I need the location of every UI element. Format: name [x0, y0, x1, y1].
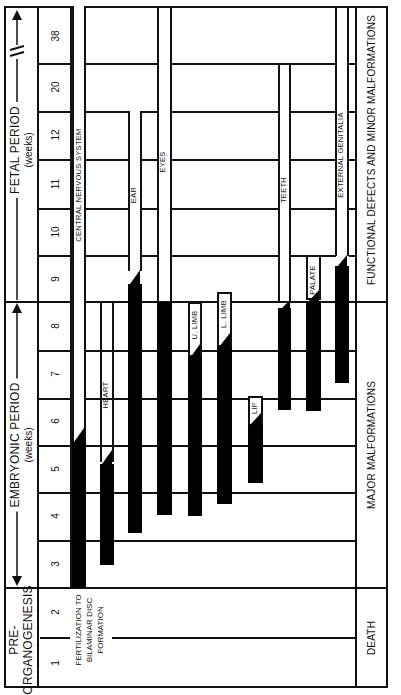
ear-bevel — [130, 270, 140, 284]
upper-limb-highly-sensitive-bar — [188, 357, 202, 516]
genitalia-label: EXTERNAL GENITALIA — [337, 112, 346, 197]
grid-line — [170, 159, 278, 161]
heart-label: HEART — [102, 382, 111, 409]
heart-bevel — [102, 450, 112, 464]
cns-label: CENTRAL NERVOUS SYSTEM — [75, 128, 84, 241]
teeth-highly-sensitive-bar — [278, 308, 291, 410]
week-label-11: 11 — [50, 179, 62, 189]
grid-line — [84, 208, 128, 210]
lower-limb-bevel — [219, 333, 230, 347]
week-label-8: 8 — [50, 323, 62, 329]
grid-line — [84, 63, 157, 65]
week-label-7: 7 — [50, 371, 62, 377]
ear-label: EAR — [130, 187, 139, 203]
week-label-2: 2 — [50, 609, 62, 615]
grid-line — [72, 540, 355, 542]
grid-line — [72, 445, 355, 447]
week-label-3: 3 — [50, 561, 62, 567]
week-label-1: 1 — [50, 660, 62, 666]
heart-highly-sensitive-bar — [100, 464, 114, 565]
week-label-6: 6 — [50, 418, 62, 424]
lower-limb-highly-sensitive-bar — [217, 347, 232, 504]
grid-line — [349, 159, 355, 161]
eyes-lane-edge — [170, 6, 172, 302]
outcome-functional-defects: FUNCTIONAL DEFECTS AND MINOR MALFORMATIO… — [366, 15, 378, 285]
grid-line — [291, 159, 336, 161]
grid-line — [349, 208, 355, 210]
cns-lane-edge — [84, 6, 86, 442]
grid-line — [37, 63, 72, 65]
grid-line — [140, 255, 157, 257]
eyes-label: EYES — [159, 151, 168, 172]
grid-line — [37, 492, 72, 494]
grid-line — [84, 255, 128, 257]
week-label-9: 9 — [50, 276, 62, 282]
grid-line — [72, 492, 355, 494]
cns-highly-sensitive-bar — [72, 442, 86, 588]
pre-embryonic-boundary — [4, 587, 388, 589]
outcome-death: DEATH — [366, 621, 378, 655]
grid-line — [140, 159, 157, 161]
heart-lane-edge — [112, 302, 114, 462]
grid-line — [140, 208, 157, 210]
upper-limb-label: U. LIMB — [191, 310, 200, 339]
week-1-2-divider — [112, 637, 355, 639]
grid-line — [37, 111, 72, 113]
lip-label: LIP — [251, 402, 260, 414]
lower-limb-label: L. LIMB — [220, 300, 229, 328]
grid-line — [84, 111, 128, 113]
grid-line — [170, 63, 336, 65]
genitalia-highly-sensitive-bar — [335, 266, 349, 383]
fertilization-note: FERTILIZATION TO BILAMINAR DISC FORMATIO… — [74, 594, 106, 665]
week-label-38: 38 — [50, 30, 62, 41]
grid-line — [37, 350, 72, 352]
outcome-major-malformations: MAJOR MALFORMATIONS — [366, 381, 378, 509]
cns-bevel — [74, 428, 84, 442]
week-label-5: 5 — [50, 466, 62, 472]
pre-organogenesis-label: PRE- ORGANOGENESIS — [8, 585, 36, 694]
grid-line — [37, 159, 72, 161]
lip-highly-sensitive-bar — [248, 425, 263, 483]
grid-line — [37, 540, 72, 542]
grid-line — [37, 255, 72, 257]
grid-line — [37, 398, 72, 400]
grid-line — [140, 111, 157, 113]
teeth-lane-edge — [289, 63, 291, 303]
week-label-20: 20 — [50, 81, 62, 92]
week-1-2-divider — [40, 637, 70, 639]
grid-line — [349, 255, 355, 257]
ear-lane-edge — [140, 111, 142, 271]
fetal-period-label: FETAL PERIOD (weeks) — [7, 102, 36, 198]
grid-line — [170, 208, 278, 210]
genitalia-lane-edge — [347, 6, 349, 256]
grid-line — [291, 111, 336, 113]
grid-line — [170, 255, 278, 257]
grid-line — [37, 445, 72, 447]
palate-highly-sensitive-bar — [306, 301, 321, 411]
grid-line — [349, 63, 355, 65]
teeth-label: TEETH — [280, 177, 289, 203]
grid-line — [170, 111, 278, 113]
scale-break-icon — [8, 45, 26, 59]
upper-limb-bevel — [190, 344, 200, 358]
week-label-10: 10 — [50, 226, 62, 237]
lip-bevel — [250, 413, 261, 425]
outcome-column-divider — [355, 6, 357, 688]
grid-line — [84, 159, 128, 161]
grid-line — [37, 208, 72, 210]
week-label-12: 12 — [50, 129, 62, 140]
ear-highly-sensitive-bar — [128, 284, 142, 533]
grid-line — [291, 208, 336, 210]
period-header-divider — [37, 6, 39, 688]
grid-line — [349, 111, 355, 113]
palate-label: PALATE — [309, 265, 318, 294]
embryonic-period-label: EMBRYONIC PERIOD (weeks) — [7, 379, 36, 512]
eyes-highly-sensitive-bar — [157, 302, 172, 515]
week-label-4: 4 — [50, 513, 62, 519]
